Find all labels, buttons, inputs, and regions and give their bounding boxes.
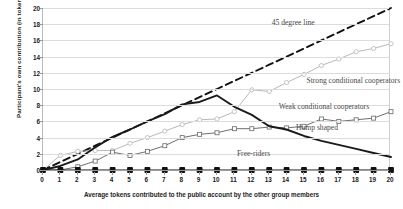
x-tick-mark-8 xyxy=(181,172,182,175)
y-tick-mark-10 xyxy=(40,89,43,90)
x-tick-mark-18 xyxy=(355,172,356,175)
x-tick-label-19: 19 xyxy=(369,176,376,183)
data-point xyxy=(163,144,167,148)
x-tick-mark-13 xyxy=(268,172,269,175)
y-tick-label-14: 14 xyxy=(33,53,40,60)
x-tick-mark-17 xyxy=(338,172,339,175)
y-tick-mark-8 xyxy=(40,105,43,106)
x-tick-label-7: 7 xyxy=(162,176,166,183)
chart-figure: Participant's own contribution (in token… xyxy=(0,0,403,209)
x-tick-label-14: 14 xyxy=(282,176,289,183)
y-tick-mark-12 xyxy=(40,73,43,74)
x-axis-tick-labels: 01234567891011121314151617181920 xyxy=(42,172,390,184)
y-axis-title: Participant's own contribution (in token… xyxy=(15,0,22,136)
x-axis-title: Average tokens contributed to the public… xyxy=(0,191,403,198)
gridline-y-16 xyxy=(43,40,389,41)
gridline-y-18 xyxy=(43,24,389,25)
x-tick-label-8: 8 xyxy=(179,176,183,183)
x-tick-label-16: 16 xyxy=(317,176,324,183)
x-tick-mark-20 xyxy=(390,172,391,175)
x-tick-mark-16 xyxy=(320,172,321,175)
x-tick-mark-4 xyxy=(112,172,113,175)
y-tick-label-12: 12 xyxy=(33,69,40,76)
gridline-y-10 xyxy=(43,89,389,90)
data-point xyxy=(250,127,254,131)
data-point xyxy=(215,131,219,135)
x-tick-label-17: 17 xyxy=(334,176,341,183)
data-point xyxy=(319,63,323,67)
x-tick-label-12: 12 xyxy=(247,176,254,183)
data-point xyxy=(198,132,202,136)
x-tick-label-13: 13 xyxy=(265,176,272,183)
x-tick-mark-5 xyxy=(129,172,130,175)
x-tick-mark-9 xyxy=(199,172,200,175)
x-tick-mark-12 xyxy=(251,172,252,175)
x-tick-mark-3 xyxy=(94,172,95,175)
annotation-free-riders: Free-riders xyxy=(237,149,270,158)
y-tick-mark-0 xyxy=(40,170,43,171)
data-point xyxy=(163,129,167,133)
gridline-y-14 xyxy=(43,57,389,58)
y-tick-mark-4 xyxy=(40,138,43,139)
x-tick-mark-19 xyxy=(373,172,374,175)
x-tick-mark-2 xyxy=(77,172,78,175)
x-tick-mark-0 xyxy=(42,172,43,175)
y-tick-mark-16 xyxy=(40,40,43,41)
x-tick-mark-1 xyxy=(59,172,60,175)
gridline-y-12 xyxy=(43,73,389,74)
x-tick-label-2: 2 xyxy=(75,176,79,183)
x-tick-label-5: 5 xyxy=(127,176,131,183)
data-point xyxy=(93,159,97,163)
y-tick-label-16: 16 xyxy=(33,37,40,44)
data-point xyxy=(372,116,376,120)
data-point xyxy=(145,149,149,153)
x-tick-label-4: 4 xyxy=(110,176,114,183)
data-point xyxy=(354,50,358,54)
data-point xyxy=(319,117,323,121)
x-tick-mark-15 xyxy=(303,172,304,175)
data-point xyxy=(372,46,376,50)
y-tick-mark-6 xyxy=(40,121,43,122)
gridline-y-2 xyxy=(43,154,389,155)
annotation-45-degree-line: 45 degree line xyxy=(272,18,315,27)
x-tick-label-15: 15 xyxy=(299,176,306,183)
x-tick-label-6: 6 xyxy=(145,176,149,183)
x-tick-label-20: 20 xyxy=(386,176,393,183)
y-axis-tick-labels: 02468101214161820 xyxy=(24,0,40,209)
data-point xyxy=(389,110,393,114)
annotation-hump-shaped: Hump shaped xyxy=(296,123,338,132)
y-tick-label-20: 20 xyxy=(33,5,40,12)
data-point xyxy=(389,42,393,46)
gridline-y-4 xyxy=(43,138,389,139)
annotation-strong-conditional-cooperators: Strong conditional cooperators xyxy=(306,76,400,85)
data-point xyxy=(285,80,289,84)
x-tick-label-10: 10 xyxy=(212,176,219,183)
y-tick-label-18: 18 xyxy=(33,21,40,28)
x-tick-mark-11 xyxy=(233,172,234,175)
x-tick-label-9: 9 xyxy=(197,176,201,183)
gridline-y-0 xyxy=(43,170,389,171)
x-tick-mark-10 xyxy=(216,172,217,175)
y-tick-mark-2 xyxy=(40,154,43,155)
data-point xyxy=(232,110,236,114)
y-tick-label-10: 10 xyxy=(33,86,40,93)
data-point xyxy=(232,127,236,131)
x-tick-label-1: 1 xyxy=(58,176,62,183)
x-tick-label-3: 3 xyxy=(92,176,96,183)
gridline-y-20 xyxy=(43,8,389,9)
x-tick-mark-14 xyxy=(286,172,287,175)
y-tick-mark-14 xyxy=(40,57,43,58)
data-point xyxy=(128,141,132,145)
data-point xyxy=(180,123,184,127)
x-tick-label-0: 0 xyxy=(40,176,44,183)
plot-area xyxy=(42,8,390,170)
x-tick-mark-6 xyxy=(146,172,147,175)
x-tick-label-11: 11 xyxy=(230,176,237,183)
x-tick-mark-7 xyxy=(164,172,165,175)
x-tick-label-18: 18 xyxy=(352,176,359,183)
annotation-weak-conditional-cooperators: Weak conditional cooperators xyxy=(279,102,369,111)
y-tick-mark-18 xyxy=(40,24,43,25)
y-tick-mark-20 xyxy=(40,8,43,9)
